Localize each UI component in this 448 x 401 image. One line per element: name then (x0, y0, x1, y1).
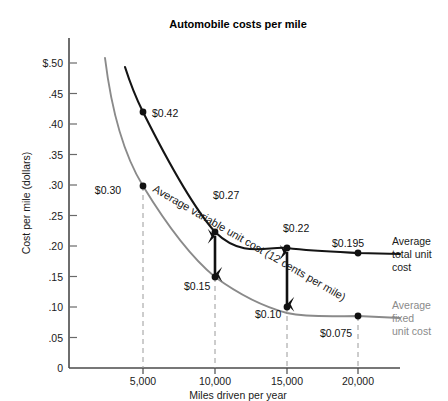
chart-container: Automobile costs per mile $.50 .45 .40 .… (0, 0, 448, 401)
legend-total-line3: cost (392, 261, 411, 273)
vertical-guide-lines (143, 186, 358, 368)
y-tick-label: .15 (48, 271, 63, 283)
y-tick-label: .05 (48, 332, 63, 344)
legend-total-line2: total unit (392, 248, 432, 260)
y-tick-label: .25 (48, 210, 63, 222)
y-tick-label: $.50 (43, 57, 64, 69)
legend-average-fixed-unit-cost: Average fixed unit cost (392, 299, 431, 337)
average-fixed-unit-cost-curve (105, 58, 400, 318)
y-tick-label: .40 (48, 118, 63, 130)
point-label-total-20000: $0.195 (332, 237, 364, 249)
x-tick-label: 10,000 (199, 375, 231, 387)
chart-title: Automobile costs per mile (169, 18, 307, 30)
automobile-costs-chart: Automobile costs per mile $.50 .45 .40 .… (0, 0, 448, 401)
point-label-fixed-20000: $0.075 (320, 327, 352, 339)
x-axis-title: Miles driven per year (189, 389, 287, 401)
average-total-unit-cost-curve (125, 67, 400, 254)
x-tick-label: 20,000 (342, 375, 374, 387)
y-axis-ticks: $.50 .45 .40 .35 .30 .25 .20 .15 .10 .05… (43, 57, 77, 374)
x-axis-ticks: 5,000 10,000 15,000 20,000 (130, 368, 374, 387)
total-cost-points (140, 109, 362, 257)
data-point (355, 313, 362, 320)
legend-total-line1: Average (392, 235, 431, 247)
point-label-fixed-10000: $0.15 (184, 280, 210, 292)
y-tick-label: .35 (48, 149, 63, 161)
average-variable-unit-cost-label: Average variable unit cost (12 cents per… (151, 182, 348, 303)
data-point (212, 229, 219, 236)
y-tick-label: .45 (48, 88, 63, 100)
data-point (284, 304, 291, 311)
legend-fixed-line3: unit cost (392, 325, 431, 337)
data-point (355, 250, 362, 257)
point-label-total-5000: $0.42 (152, 107, 178, 119)
data-point (284, 245, 291, 252)
legend-average-total-unit-cost: Average total unit cost (392, 235, 432, 273)
data-point (212, 274, 219, 281)
data-point (140, 109, 147, 116)
y-axis-title: Cost per mile (dollars) (20, 152, 32, 255)
y-tick-label: 0 (57, 362, 63, 374)
x-tick-label: 15,000 (271, 375, 303, 387)
point-label-total-10000: $0.27 (213, 189, 239, 201)
point-label-fixed-5000: $0.30 (95, 184, 121, 196)
y-tick-label: .10 (48, 301, 63, 313)
data-point (140, 183, 147, 190)
x-tick-label: 5,000 (130, 375, 156, 387)
axes (69, 38, 400, 368)
y-tick-label: .20 (48, 240, 63, 252)
y-tick-label: .30 (48, 179, 63, 191)
point-label-fixed-15000: $0.10 (255, 308, 281, 320)
legend-fixed-line2: fixed (392, 312, 414, 324)
legend-fixed-line1: Average (392, 299, 431, 311)
point-label-total-15000: $0.22 (283, 222, 309, 234)
